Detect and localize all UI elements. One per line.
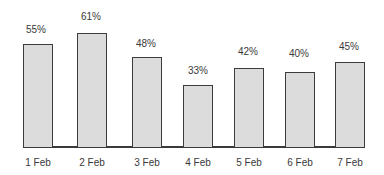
bar-chart: 55% 61% 48% 33% 42% 40% 45% 1 Feb 2 Feb …: [0, 0, 384, 175]
value-label-3-feb: 48%: [126, 38, 166, 49]
value-label-7-feb: 45%: [329, 41, 369, 52]
x-tick-label-3-feb: 3 Feb: [122, 157, 172, 168]
x-tick-label-7-feb: 7 Feb: [325, 157, 375, 168]
x-tick-label-4-feb: 4 Feb: [173, 157, 223, 168]
bar-5-feb: [234, 68, 264, 147]
x-tick-label-1-feb: 1 Feb: [13, 157, 63, 168]
value-label-6-feb: 40%: [279, 48, 319, 59]
bar-6-feb: [285, 72, 315, 147]
x-tick-label-2-feb: 2 Feb: [67, 157, 117, 168]
x-tick-label-6-feb: 6 Feb: [275, 157, 325, 168]
value-label-1-feb: 55%: [16, 24, 56, 35]
value-label-5-feb: 42%: [228, 46, 268, 57]
bar-3-feb: [132, 57, 162, 147]
bar-1-feb: [23, 44, 53, 147]
bar-4-feb: [183, 85, 213, 147]
value-label-4-feb: 33%: [178, 65, 218, 76]
bar-2-feb: [77, 33, 107, 147]
value-label-2-feb: 61%: [71, 11, 111, 22]
x-tick-label-5-feb: 5 Feb: [224, 157, 274, 168]
bar-7-feb: [335, 62, 365, 147]
